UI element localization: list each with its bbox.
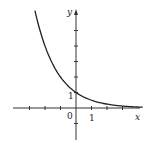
y-axis-arrow-icon (74, 9, 78, 15)
x-tick-label-1: 1 (89, 113, 95, 123)
exponential-curve (35, 11, 143, 108)
y-tick-label-1: 1 (68, 91, 74, 101)
y-axis-label: y (66, 7, 73, 17)
exponential-plot: y x 0 1 1 (0, 0, 149, 148)
x-axis-label: x (135, 112, 140, 122)
origin-label: 0 (67, 111, 73, 121)
